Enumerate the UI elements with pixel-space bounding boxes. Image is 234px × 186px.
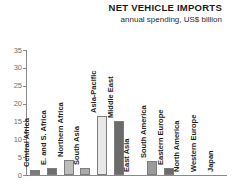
bar-category-label: Asia-Pacific: [88, 70, 97, 113]
chart-title: NET VEHICLE IMPORTS: [0, 2, 222, 13]
bar-category-label: North America: [172, 121, 181, 172]
chart-subtitle: annual spending, US$ billion: [0, 14, 222, 25]
plot-area: 05101520253035 Central AfricaE. and S. A…: [26, 50, 227, 176]
bar[interactable]: [97, 116, 107, 175]
y-tick-label: 30: [4, 64, 22, 71]
y-tick-mark: [23, 86, 26, 87]
y-tick-mark: [23, 68, 26, 69]
bar-group[interactable]: Japan: [214, 50, 224, 175]
chart-figure: NET VEHICLE IMPORTS annual spending, US$…: [0, 0, 234, 186]
y-tick-label: 20: [4, 100, 22, 107]
bar-category-label: South Asia: [72, 126, 81, 165]
y-tick-label: 35: [4, 47, 22, 54]
bar[interactable]: [30, 170, 40, 175]
y-tick-label: 0: [4, 172, 22, 179]
bar[interactable]: [47, 168, 57, 176]
bar-category-label: Middle East: [105, 76, 114, 118]
bar-series: Central AfricaE. and S. AfricaNorthern A…: [27, 50, 227, 175]
bar-category-label: E. and S. Africa: [38, 110, 47, 165]
y-tick-label: 10: [4, 136, 22, 143]
y-tick-label: 5: [4, 154, 22, 161]
bar-category-label: Northern Africa: [55, 103, 64, 158]
y-tick-label: 15: [4, 118, 22, 125]
bar[interactable]: [80, 168, 90, 175]
bar-category-label: East Asia: [122, 139, 131, 173]
bar-category-label: Western Europe: [188, 115, 197, 172]
bar-category-label: Central Africa: [22, 118, 31, 167]
x-axis-line: [26, 175, 227, 176]
y-tick-label: 25: [4, 82, 22, 89]
bar-category-label: Japan: [205, 150, 214, 172]
bar-category-label: Eastern Europe: [155, 110, 164, 165]
y-tick-mark: [23, 104, 26, 105]
bar-category-label: South America: [138, 105, 147, 158]
chart-header: NET VEHICLE IMPORTS annual spending, US$…: [0, 2, 222, 25]
y-tick-mark: [23, 50, 26, 51]
y-tick-mark: [23, 175, 26, 176]
